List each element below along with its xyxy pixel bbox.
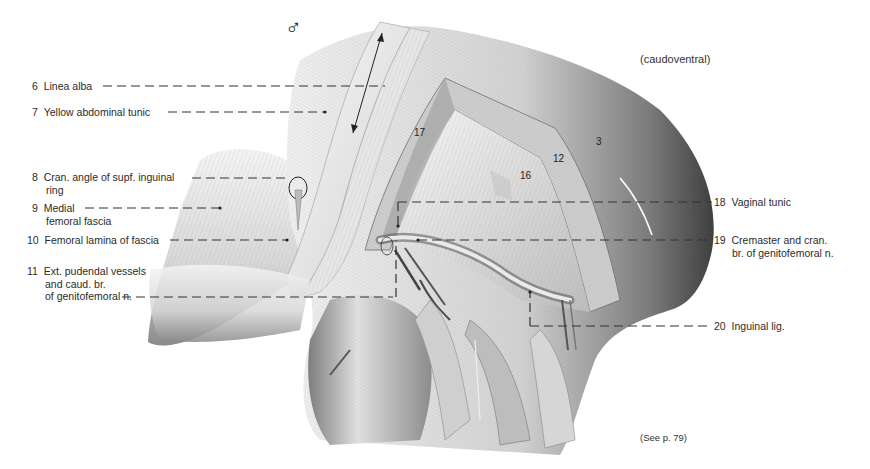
label-yellow-abdominal-tunic: 7 Yellow abdominal tunic bbox=[32, 106, 150, 119]
label-cremaster-genitofemoral: 19 Cremaster and cran. br. of genitofemo… bbox=[714, 234, 834, 259]
anatomy-figure: ♂ (caudoventral) (See p. 79) 17 16 12 3 … bbox=[0, 0, 870, 469]
region-number-16: 16 bbox=[520, 170, 531, 181]
label-linea-alba: 6 Linea alba bbox=[32, 80, 92, 93]
label-ext-pudendal-vessels: 11 Ext. pudendal vessels and caud. br. o… bbox=[27, 265, 146, 303]
region-number-17: 17 bbox=[414, 127, 425, 138]
male-symbol-icon: ♂ bbox=[285, 17, 302, 39]
view-orientation-note: (caudoventral) bbox=[640, 53, 710, 65]
region-number-3: 3 bbox=[596, 136, 602, 147]
region-number-12: 12 bbox=[553, 153, 564, 164]
label-vaginal-tunic: 18 Vaginal tunic bbox=[714, 196, 791, 209]
label-cran-angle-supf-inguinal-ring: 8 Cran. angle of supf. inguinal ring bbox=[32, 171, 174, 196]
label-inguinal-ligament: 20 Inguinal lig. bbox=[714, 320, 785, 333]
page-reference-note: (See p. 79) bbox=[640, 432, 687, 443]
label-medial-femoral-fascia: 9 Medial femoral fascia bbox=[32, 202, 111, 227]
label-femoral-lamina-of-fascia: 10 Femoral lamina of fascia bbox=[27, 234, 159, 247]
